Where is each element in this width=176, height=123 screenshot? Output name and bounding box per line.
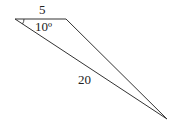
angle-arc: [23, 19, 25, 24]
angle-label: 10º: [35, 19, 52, 34]
side-long-label: 20: [78, 72, 91, 87]
side-right: [66, 19, 167, 119]
triangle-diagram: 5 10º 20: [0, 0, 176, 123]
side-top-label: 5: [39, 2, 46, 17]
side-long: [15, 19, 167, 119]
